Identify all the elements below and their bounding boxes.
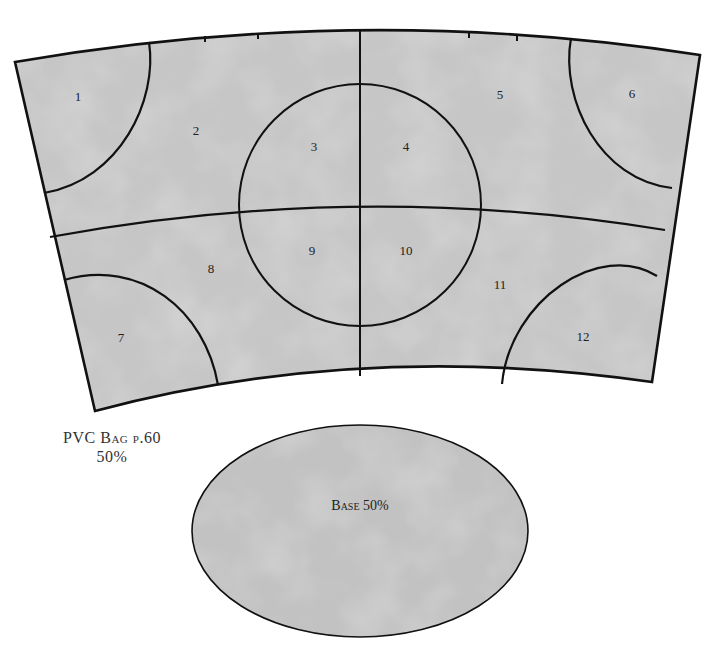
piece-label-4: 4: [403, 139, 410, 155]
piece-label-1: 1: [75, 89, 82, 105]
caption-scale: 50%: [52, 447, 172, 466]
piece-label-7: 7: [118, 330, 125, 346]
pattern-caption: PVC Bag p.60 50%: [52, 428, 172, 466]
piece-label-12: 12: [577, 329, 590, 345]
caption-title: PVC Bag p.60: [52, 428, 172, 447]
piece-label-9: 9: [309, 243, 316, 259]
piece-label-2: 2: [193, 123, 200, 139]
piece-label-11: 11: [494, 277, 507, 293]
piece-label-10: 10: [400, 243, 413, 259]
base-ellipse: [192, 425, 528, 637]
piece-label-8: 8: [208, 261, 215, 277]
piece-label-5: 5: [497, 87, 504, 103]
bag-panel: [15, 30, 700, 411]
base-label: Base 50%: [331, 498, 388, 514]
pattern-canvas: [0, 0, 712, 653]
piece-label-6: 6: [629, 86, 636, 102]
piece-label-3: 3: [311, 139, 318, 155]
